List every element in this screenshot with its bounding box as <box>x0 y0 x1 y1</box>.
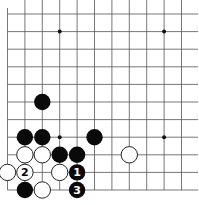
board-grid <box>8 0 199 190</box>
stone-circle <box>52 147 68 163</box>
stone-circle <box>86 129 102 145</box>
stone-circle <box>52 164 68 180</box>
white-stone <box>121 147 137 163</box>
move-number-label: 1 <box>73 166 81 179</box>
stone-circle <box>34 94 50 110</box>
black-stone: 3 <box>69 182 85 198</box>
stone-circle <box>0 164 16 180</box>
black-stone <box>52 147 68 163</box>
move-number-label: 2 <box>21 166 29 179</box>
black-stone <box>86 129 102 145</box>
stone-circle <box>34 147 50 163</box>
white-stone <box>0 164 16 180</box>
stone-circle <box>69 147 85 163</box>
stone-circle <box>17 182 33 198</box>
stone-circle <box>121 147 137 163</box>
white-stone <box>52 164 68 180</box>
star-point <box>58 135 62 139</box>
white-stone <box>17 147 33 163</box>
white-stone: 2 <box>17 164 33 180</box>
black-stone: 1 <box>69 164 85 180</box>
black-stone <box>34 94 50 110</box>
go-board: 213 <box>0 0 198 205</box>
white-stone <box>34 182 50 198</box>
black-stone <box>17 129 33 145</box>
black-stone <box>34 129 50 145</box>
stone-circle <box>34 182 50 198</box>
stone-circle <box>34 129 50 145</box>
star-point <box>162 135 166 139</box>
stones-layer: 213 <box>0 94 137 198</box>
star-point <box>58 30 62 34</box>
stone-circle <box>17 147 33 163</box>
black-stone <box>69 147 85 163</box>
stone-circle <box>17 129 33 145</box>
star-point <box>162 30 166 34</box>
black-stone <box>17 182 33 198</box>
white-stone <box>34 147 50 163</box>
move-number-label: 3 <box>73 184 81 197</box>
